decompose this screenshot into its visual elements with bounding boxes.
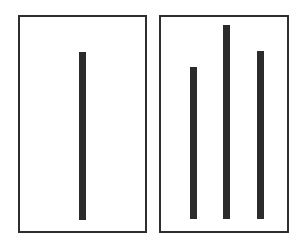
comparison-bar-2 — [223, 25, 230, 219]
comparison-bar-1 — [190, 67, 197, 219]
comparison-bar-3 — [257, 51, 264, 219]
reference-bar — [79, 52, 86, 220]
